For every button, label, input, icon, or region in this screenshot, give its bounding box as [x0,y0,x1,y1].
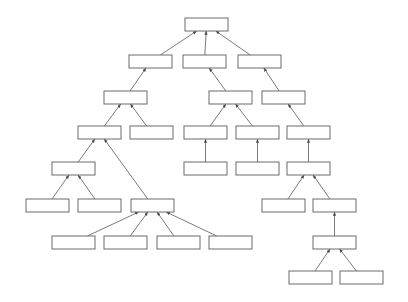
node-rect-n18[interactable] [78,199,121,212]
edge-n10-to-n6 [210,104,226,126]
node-box[interactable] [26,199,69,212]
edge-n24-to-n19 [157,212,174,236]
node-box[interactable] [185,18,228,31]
node-rect-n6[interactable] [209,91,252,104]
edge-n23-to-n19 [130,212,148,236]
node-rect-n27[interactable] [289,271,332,284]
node-rect-n20[interactable] [262,199,305,212]
node-box[interactable] [209,236,252,249]
node-box[interactable] [236,162,279,175]
node-rect-n16[interactable] [287,162,330,175]
edge-n2-to-n1 [160,31,196,55]
edge-n22-to-n19 [87,212,138,236]
node-rect-n3[interactable] [183,55,226,68]
node-box[interactable] [131,199,174,212]
edge-n25-to-n19 [166,212,217,236]
node-box[interactable] [287,126,330,139]
node-box[interactable] [236,126,279,139]
node-rect-n28[interactable] [340,271,383,284]
node-box[interactable] [52,236,95,249]
edge-n12-to-n7 [288,104,304,126]
edge-n13-to-n8 [78,139,95,162]
edge-n19-to-n8 [104,139,148,199]
edge-n9-to-n5 [130,104,146,126]
node-rect-n17[interactable] [26,199,69,212]
edge-n28-to-n26 [340,249,357,271]
node-rect-n8[interactable] [78,126,121,139]
edge-n27-to-n26 [315,249,330,271]
node-rect-n11[interactable] [236,126,279,139]
edge-n17-to-n13 [52,175,69,199]
node-rect-n1[interactable] [185,18,228,31]
edge-n21-to-n16 [313,175,330,199]
node-rect-n5[interactable] [104,91,147,104]
node-box[interactable] [104,236,147,249]
edge-n18-to-n13 [78,175,95,199]
node-rect-n19[interactable] [131,199,174,212]
node-box[interactable] [78,126,121,139]
node-rect-n14[interactable] [184,162,227,175]
node-box[interactable] [157,236,200,249]
node-rect-n24[interactable] [157,236,200,249]
edge-n7-to-n4 [264,68,279,91]
edge-n20-to-n16 [288,175,304,199]
edge-n4-to-n1 [216,31,250,55]
node-box[interactable] [313,199,356,212]
node-rect-n26[interactable] [313,236,356,249]
node-rect-n2[interactable] [129,55,172,68]
node-box[interactable] [104,91,147,104]
node-rect-n4[interactable] [238,55,281,68]
diagram-canvas [0,0,408,302]
node-box[interactable] [287,162,330,175]
node-box[interactable] [184,162,227,175]
node-rect-n15[interactable] [236,162,279,175]
node-box[interactable] [130,126,173,139]
node-rect-n25[interactable] [209,236,252,249]
node-box[interactable] [262,91,305,104]
nodes-layer [26,18,383,284]
node-box[interactable] [129,55,172,68]
node-box[interactable] [340,271,383,284]
node-rect-n22[interactable] [52,236,95,249]
node-box[interactable] [52,162,95,175]
node-rect-n23[interactable] [104,236,147,249]
node-rect-n9[interactable] [130,126,173,139]
node-box[interactable] [184,126,227,139]
edge-n11-to-n6 [236,104,253,126]
tree-diagram [0,0,408,302]
node-rect-n21[interactable] [313,199,356,212]
node-box[interactable] [238,55,281,68]
node-box[interactable] [289,271,332,284]
node-rect-n12[interactable] [287,126,330,139]
node-box[interactable] [262,199,305,212]
node-rect-n7[interactable] [262,91,305,104]
node-rect-n13[interactable] [52,162,95,175]
node-box[interactable] [313,236,356,249]
edge-n6-to-n3 [209,68,226,91]
node-box[interactable] [183,55,226,68]
edge-n5-to-n2 [130,68,146,91]
node-box[interactable] [209,91,252,104]
node-box[interactable] [78,199,121,212]
node-rect-n10[interactable] [184,126,227,139]
edge-n3-to-n1 [205,31,206,55]
edge-n8-to-n5 [104,104,120,126]
